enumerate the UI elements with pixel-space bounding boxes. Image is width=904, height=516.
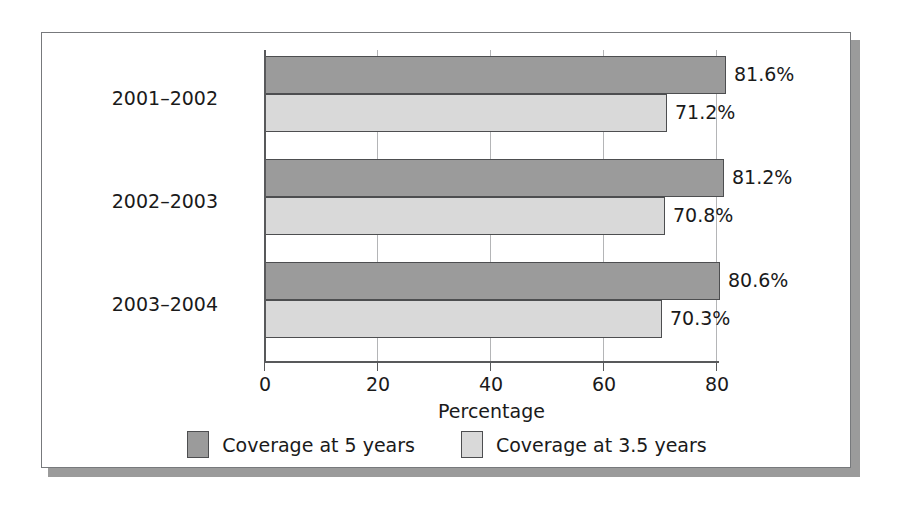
x-axis-title: Percentage: [264, 400, 719, 422]
bar-2003-2004-coverage-3-5-years: [265, 300, 662, 338]
x-tick-mark-40: [490, 362, 491, 371]
y-axis-line: [264, 50, 266, 362]
value-label-2003-2004-dark: 80.6%: [728, 269, 788, 291]
category-label-2003-2004: 2003–2004: [112, 293, 218, 315]
category-label-2002-2003: 2002–2003: [112, 190, 218, 212]
x-tick-mark-0: [264, 362, 265, 371]
legend-swatch-dark-icon: [187, 431, 209, 458]
x-tick-mark-60: [603, 362, 604, 371]
x-tick-label-80: 80: [705, 373, 729, 395]
value-label-2003-2004-light: 70.3%: [670, 307, 730, 329]
value-label-2001-2002-dark: 81.6%: [734, 63, 794, 85]
bar-2002-2003-coverage-3-5-years: [265, 197, 665, 235]
bar-2003-2004-coverage-5-years: [265, 262, 720, 300]
x-tick-label-0: 0: [259, 373, 271, 395]
x-tick-mark-80: [716, 362, 717, 371]
figure-root: 2001–2002 81.6% 71.2% 2002–2003 81.2% 70…: [0, 0, 904, 516]
x-tick-mark-20: [377, 362, 378, 371]
category-label-2001-2002: 2001–2002: [112, 87, 218, 109]
bar-2001-2002-coverage-5-years: [265, 56, 726, 94]
x-tick-label-60: 60: [592, 373, 616, 395]
chart-legend: Coverage at 5 years Coverage at 3.5 year…: [42, 431, 852, 458]
bar-2001-2002-coverage-3-5-years: [265, 94, 667, 132]
legend-label-coverage-5-years: Coverage at 5 years: [222, 434, 415, 456]
bar-2002-2003-coverage-5-years: [265, 159, 724, 197]
figure-frame: 2001–2002 81.6% 71.2% 2002–2003 81.2% 70…: [41, 32, 851, 468]
value-label-2002-2003-light: 70.8%: [673, 204, 733, 226]
chart-plot-area: 2001–2002 81.6% 71.2% 2002–2003 81.2% 70…: [42, 33, 852, 469]
value-label-2001-2002-light: 71.2%: [675, 101, 735, 123]
legend-item-coverage-5-years: Coverage at 5 years: [187, 431, 415, 458]
legend-swatch-light-icon: [461, 431, 483, 458]
x-tick-label-40: 40: [479, 373, 503, 395]
x-axis-line: [264, 361, 719, 363]
x-tick-label-20: 20: [366, 373, 390, 395]
value-label-2002-2003-dark: 81.2%: [732, 166, 792, 188]
legend-item-coverage-3-5-years: Coverage at 3.5 years: [461, 431, 707, 458]
legend-label-coverage-3-5-years: Coverage at 3.5 years: [496, 434, 707, 456]
